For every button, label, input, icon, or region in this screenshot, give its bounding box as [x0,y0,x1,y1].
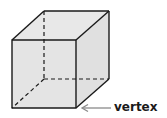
vertex-label: vertex [114,100,158,114]
arrow-icon [82,105,111,112]
